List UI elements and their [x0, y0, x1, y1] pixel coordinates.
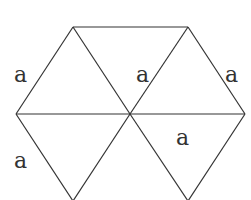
diagonal-center-bottom-left — [73, 114, 130, 200]
internal-edges — [16, 27, 245, 200]
label-lower-left-side: a — [14, 148, 27, 173]
diagonal-top-left-center — [73, 27, 130, 114]
hexagon-diagram: a a a a a — [0, 0, 251, 200]
label-upper-right-side: a — [225, 62, 238, 87]
side-labels: a a a a a — [14, 62, 238, 173]
label-center-diagonal: a — [136, 62, 149, 87]
label-lower-right-triangle: a — [176, 125, 189, 150]
label-upper-left-side: a — [14, 62, 27, 87]
edge-lower-right — [188, 114, 245, 200]
